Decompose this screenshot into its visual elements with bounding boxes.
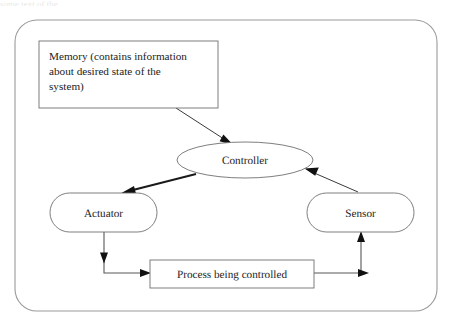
- node-controller[interactable]: Controller: [177, 142, 313, 178]
- actuator-label: Actuator: [84, 208, 123, 220]
- process-label: Process being controlled: [177, 269, 287, 281]
- memory-line-2: about desired state of the: [49, 65, 161, 77]
- memory-line-3: system): [49, 80, 84, 93]
- memory-line-1: Memory (contains information: [49, 50, 187, 63]
- edge-process-to-sensor: [314, 231, 369, 277]
- edge-actuator-to-process: [100, 232, 151, 277]
- node-process[interactable]: Process being controlled: [150, 260, 314, 288]
- edge-sensor-to-controller: [305, 167, 359, 192]
- node-sensor[interactable]: Sensor: [307, 193, 414, 232]
- control-system-figure: some text of the: [0, 0, 455, 325]
- edge-memory-to-controller: [176, 108, 234, 145]
- node-actuator[interactable]: Actuator: [50, 193, 157, 232]
- node-memory[interactable]: Memory (contains information about desir…: [39, 41, 218, 108]
- sensor-label: Sensor: [345, 208, 376, 220]
- diagram-canvas: Memory (contains information about desir…: [0, 0, 455, 325]
- controller-label: Controller: [222, 155, 268, 167]
- edge-controller-to-actuator: [121, 174, 197, 195]
